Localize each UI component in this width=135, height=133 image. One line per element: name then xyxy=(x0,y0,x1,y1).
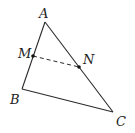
point-m-dot xyxy=(31,54,35,58)
triangle-diagram: A M N B C xyxy=(0,0,135,133)
side-bc xyxy=(22,89,113,112)
label-m: M xyxy=(17,46,32,61)
point-n-dot xyxy=(77,65,81,69)
label-c: C xyxy=(116,114,126,129)
label-b: B xyxy=(9,92,20,107)
diagram-svg: A M N B C xyxy=(0,0,135,133)
label-a: A xyxy=(38,6,48,21)
label-n: N xyxy=(82,52,95,67)
